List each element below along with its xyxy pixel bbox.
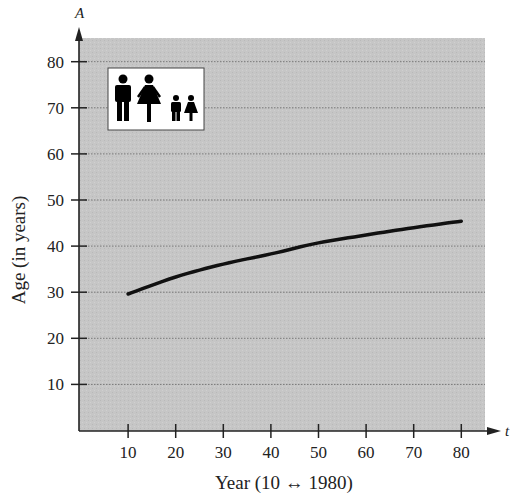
y-tick-label: 80 [47, 53, 64, 72]
y-tick-label: 40 [47, 237, 64, 256]
x-tick-label: 20 [167, 443, 184, 462]
family-icon-box [108, 68, 204, 130]
x-axis-title: Year (10 ↔ 1980) [215, 472, 353, 494]
x-tick-label: 50 [310, 443, 327, 462]
x-tick-label: 70 [405, 443, 422, 462]
y-axis-arrow-icon [75, 27, 83, 41]
y-axis-title: Age (in years) [8, 196, 30, 305]
x-tick-label: 60 [358, 443, 375, 462]
x-tick-label: 10 [120, 443, 137, 462]
line-chart: 1020304050607080 1020304050607080 A t Ye… [0, 0, 516, 497]
y-tick-label: 30 [47, 283, 64, 302]
x-axis-variable: t [505, 423, 510, 439]
y-tick-label: 70 [47, 99, 64, 118]
x-tick-label: 80 [453, 443, 470, 462]
y-tick-label: 10 [47, 375, 64, 394]
y-tick-label: 50 [47, 191, 64, 210]
x-tick-label: 40 [262, 443, 279, 462]
x-tick-label: 30 [215, 443, 232, 462]
y-tick-label: 60 [47, 145, 64, 164]
y-tick-label: 20 [47, 329, 64, 348]
x-axis-arrow-icon [487, 427, 501, 435]
y-axis-variable: A [74, 5, 85, 21]
